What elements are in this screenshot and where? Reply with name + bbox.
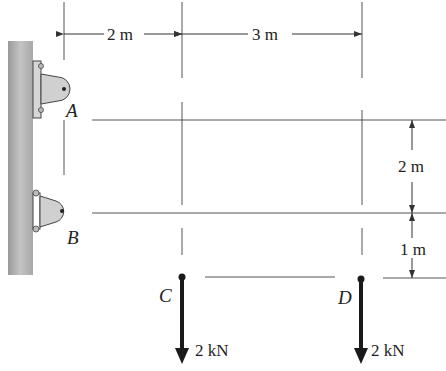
frame-diagram: 2 m 3 m 2 m 1 m A B C 2 kN D 2 k xyxy=(0,0,446,371)
load-c-label: 2 kN xyxy=(195,341,229,360)
pin-support-a xyxy=(33,61,70,118)
load-d-label: 2 kN xyxy=(371,341,405,360)
label-d: D xyxy=(337,287,352,308)
label-b: B xyxy=(67,227,79,248)
label-c: C xyxy=(159,285,172,306)
dim-2m-horizontal: 2 m xyxy=(107,25,133,44)
label-a: A xyxy=(64,100,78,121)
pin-support-b xyxy=(33,190,64,232)
dim-2m-vertical: 2 m xyxy=(398,157,424,176)
force-arrow-c xyxy=(175,274,189,365)
dim-1m-vertical: 1 m xyxy=(400,240,426,259)
wall xyxy=(8,41,33,275)
force-arrow-d xyxy=(354,276,368,365)
dim-3m-horizontal: 3 m xyxy=(252,25,278,44)
